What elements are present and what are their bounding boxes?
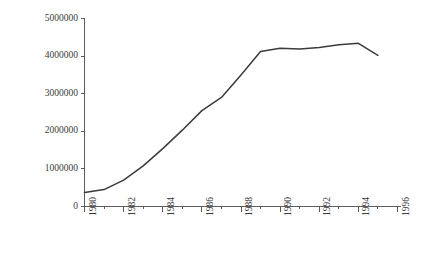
plot-area xyxy=(0,0,423,257)
chart-figure: Ethanol-compatible vehicles 010000002000… xyxy=(0,0,423,257)
data-series-group xyxy=(85,43,378,192)
axes-group xyxy=(81,18,401,212)
data-line-0 xyxy=(85,43,378,192)
